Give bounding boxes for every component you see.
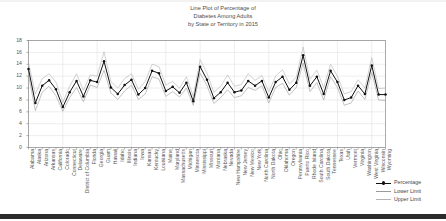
x-tick-label: Puerto Rico: [305, 149, 310, 176]
y-tick-label: 18: [8, 38, 22, 43]
legend-marker-icon: [382, 181, 385, 184]
y-tick-label: 14: [8, 61, 22, 66]
x-tick-label: California: [58, 149, 63, 171]
series-percentage: [27, 54, 387, 108]
x-tick-label: Colorado: [65, 149, 70, 170]
x-tick-label: Oregon: [291, 149, 296, 166]
legend-swatch-icon: [376, 183, 391, 184]
x-tick-label: Alaska: [37, 149, 42, 164]
chart-legend: PercentageLower LimitUpper Limit: [376, 180, 442, 208]
x-tick-label: New Jersey: [243, 149, 248, 176]
x-tick-label: Michigan: [188, 149, 193, 169]
x-tick-label: Missouri: [209, 149, 214, 168]
x-tick-label: Pennsylvania: [298, 149, 303, 179]
x-tick-label: Indiana: [133, 149, 138, 166]
x-tick-label: Mississippi: [202, 149, 207, 174]
x-tick-label: South Carolina: [319, 149, 324, 183]
x-tick-label: West Virginia: [374, 149, 379, 179]
x-tick-label: Rhode Island: [312, 149, 317, 179]
x-tick-label: North Carolina: [264, 149, 269, 182]
x-tick-label: Montana: [216, 149, 221, 169]
x-tick-label: Kansas: [147, 149, 152, 166]
x-tick-label: Idaho: [120, 149, 125, 162]
legend-item-upper-limit[interactable]: Upper Limit: [376, 196, 442, 204]
x-tick-label: New York: [257, 149, 262, 171]
legend-label: Lower Limit: [394, 188, 421, 194]
x-tick-label: Texas: [339, 149, 344, 162]
legend-swatch-icon: [376, 199, 391, 200]
y-tick-label: 4: [8, 121, 22, 126]
y-tick-label: 12: [8, 73, 22, 78]
x-tick-label: Minnesota: [195, 149, 200, 173]
legend-label: Percentage: [394, 179, 421, 185]
x-tick-label: Vermont: [353, 149, 358, 168]
x-tick-label: North Dakota: [271, 149, 276, 179]
x-tick-label: Maine: [168, 149, 173, 163]
legend-swatch-icon: [376, 191, 391, 192]
x-tick-label: Louisiana: [161, 149, 166, 171]
x-tick-label: New Mexico: [250, 149, 255, 177]
x-tick-label: Kentucky: [154, 149, 159, 170]
x-tick-label: Oklahoma: [284, 149, 289, 172]
y-tick-label: 16: [8, 50, 22, 55]
x-tick-label: Washington: [367, 149, 372, 176]
x-tick-label: Hawaii: [113, 149, 118, 164]
scan-artifact-bottom: [0, 214, 446, 219]
chart-figure: Line Plot of Percentage of Diabetes Amon…: [0, 0, 446, 221]
x-tick-label: Wyoming: [387, 149, 392, 170]
y-tick-label: 8: [8, 97, 22, 102]
x-tick-label: Alabama: [30, 149, 35, 169]
x-tick-label: Utah: [346, 149, 351, 160]
x-tick-label: New Hampshire: [236, 149, 241, 185]
y-tick-label: 2: [8, 133, 22, 138]
x-tick-label: District of Columbia: [85, 149, 90, 193]
x-tick-label: Georgia: [99, 149, 104, 167]
x-tick-label: Florida: [92, 149, 97, 165]
x-tick-label: Arkansas: [51, 149, 56, 170]
x-tick-label: Guam: [106, 149, 111, 163]
x-tick-label: Arizona: [44, 149, 49, 166]
x-tick-label: Virginia: [360, 149, 365, 166]
x-tick-label: Iowa: [140, 149, 145, 160]
legend-label: Upper Limit: [394, 196, 421, 202]
data-series: [27, 47, 387, 111]
y-tick-label: 6: [8, 109, 22, 114]
y-tick-label: 10: [8, 85, 22, 90]
